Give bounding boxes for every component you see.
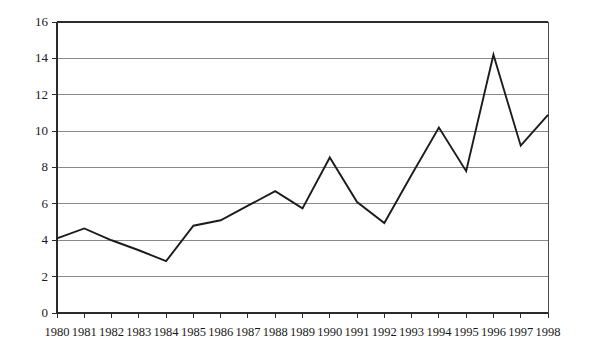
y-axis-label-12: 12 <box>35 87 48 102</box>
x-axis-label-1989: 1989 <box>290 325 315 339</box>
y-axis-label-0: 0 <box>42 305 49 320</box>
x-axis-label-1998: 1998 <box>536 325 561 339</box>
x-axis-label-1983: 1983 <box>126 325 151 339</box>
y-axis-label-16: 16 <box>35 14 49 29</box>
x-axis-labels: 1980198119821983198419851986198719881989… <box>45 325 561 339</box>
x-axis-label-1997: 1997 <box>508 325 533 339</box>
chart-background <box>0 0 594 359</box>
y-axis-label-6: 6 <box>42 196 49 211</box>
x-axis-label-1982: 1982 <box>99 325 124 339</box>
y-axis-label-2: 2 <box>42 269 49 284</box>
x-axis-label-1981: 1981 <box>72 325 97 339</box>
x-axis-label-1986: 1986 <box>208 325 233 339</box>
x-axis-label-1992: 1992 <box>372 325 397 339</box>
x-axis-label-1985: 1985 <box>181 325 206 339</box>
chart-svg: 0246810121416 19801981198219831984198519… <box>0 0 594 359</box>
line-chart: 0246810121416 19801981198219831984198519… <box>0 0 594 359</box>
x-axis-label-1996: 1996 <box>481 325 506 339</box>
y-axis-label-10: 10 <box>35 123 48 138</box>
y-axis-label-14: 14 <box>35 50 49 65</box>
x-axis-label-1987: 1987 <box>235 325 260 339</box>
y-axis-label-4: 4 <box>42 232 49 247</box>
x-axis-label-1994: 1994 <box>426 325 452 339</box>
x-axis-label-1984: 1984 <box>154 325 180 339</box>
y-axis-label-8: 8 <box>42 159 49 174</box>
x-axis-label-1993: 1993 <box>399 325 424 339</box>
x-axis-label-1988: 1988 <box>263 325 288 339</box>
x-axis-label-1980: 1980 <box>45 325 70 339</box>
x-axis-label-1995: 1995 <box>454 325 479 339</box>
x-axis-label-1991: 1991 <box>345 325 370 339</box>
x-axis-label-1990: 1990 <box>317 325 342 339</box>
